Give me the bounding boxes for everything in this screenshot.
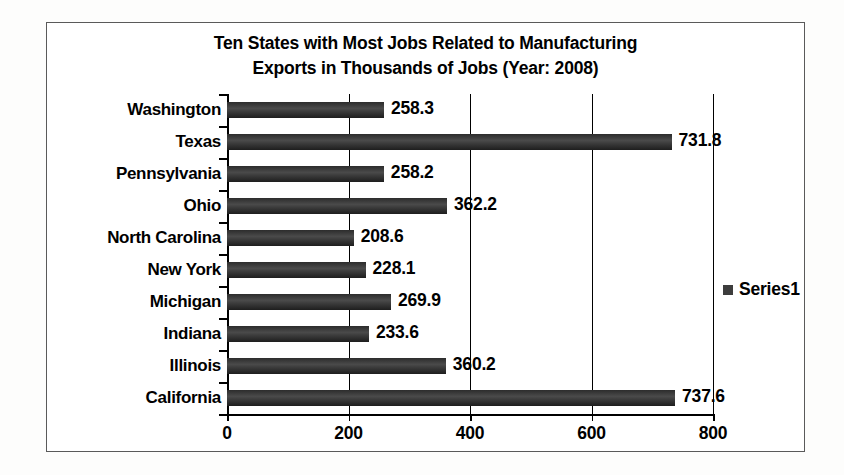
category-label-texas: Texas bbox=[43, 132, 221, 152]
y-axis-category-labels: WashingtonTexasPennsylvaniaOhioNorth Car… bbox=[47, 94, 221, 414]
value-label-washington: 258.3 bbox=[391, 98, 434, 119]
chart-title: Ten States with Most Jobs Related to Man… bbox=[47, 31, 804, 82]
bar-pennsylvania bbox=[227, 166, 384, 182]
y-tick-2 bbox=[219, 158, 227, 160]
x-tick-label-200: 200 bbox=[334, 423, 363, 444]
bar-north-carolina bbox=[227, 230, 354, 246]
legend: Series1 bbox=[723, 279, 800, 300]
category-label-new-york: New York bbox=[43, 260, 221, 280]
value-label-illinois: 360.2 bbox=[453, 354, 496, 375]
bar-california bbox=[227, 390, 675, 406]
value-label-ohio: 362.2 bbox=[454, 194, 497, 215]
y-tick-6 bbox=[219, 286, 227, 288]
value-label-pennsylvania: 258.2 bbox=[391, 162, 434, 183]
bar-illinois bbox=[227, 358, 446, 374]
bar-ohio bbox=[227, 198, 447, 214]
bar-texas bbox=[227, 134, 672, 150]
bar-indiana bbox=[227, 326, 369, 342]
x-axis-line bbox=[227, 414, 714, 416]
y-tick-8 bbox=[219, 350, 227, 352]
value-label-north-carolina: 208.6 bbox=[361, 226, 404, 247]
category-label-north-carolina: North Carolina bbox=[43, 228, 221, 248]
category-label-illinois: Illinois bbox=[43, 356, 221, 376]
value-label-california: 737.6 bbox=[682, 386, 725, 407]
y-tick-10 bbox=[219, 414, 227, 416]
chart-frame: Ten States with Most Jobs Related to Man… bbox=[46, 22, 805, 452]
bar-michigan bbox=[227, 294, 391, 310]
y-tick-1 bbox=[219, 126, 227, 128]
x-tick-label-800: 800 bbox=[699, 423, 728, 444]
bar-washington bbox=[227, 102, 384, 118]
category-label-michigan: Michigan bbox=[43, 292, 221, 312]
value-label-indiana: 233.6 bbox=[376, 322, 419, 343]
y-tick-7 bbox=[219, 318, 227, 320]
scanned-page-background: Ten States with Most Jobs Related to Man… bbox=[0, 0, 844, 475]
chart-title-line-1: Ten States with Most Jobs Related to Man… bbox=[47, 31, 804, 56]
value-label-michigan: 269.9 bbox=[398, 290, 441, 311]
x-axis-tick-labels: 0200400600800 bbox=[227, 423, 714, 451]
value-label-texas: 731.8 bbox=[679, 130, 722, 151]
y-tick-9 bbox=[219, 382, 227, 384]
category-label-california: California bbox=[43, 388, 221, 408]
category-label-indiana: Indiana bbox=[43, 324, 221, 344]
value-label-new-york: 228.1 bbox=[373, 258, 416, 279]
bar-new-york bbox=[227, 262, 366, 278]
legend-label-series1: Series1 bbox=[739, 279, 800, 300]
y-tick-0 bbox=[219, 94, 227, 96]
legend-swatch-series1 bbox=[723, 285, 733, 295]
y-tick-3 bbox=[219, 190, 227, 192]
x-tick-label-600: 600 bbox=[577, 423, 606, 444]
x-tick-label-0: 0 bbox=[222, 423, 232, 444]
chart-title-line-2: Exports in Thousands of Jobs (Year: 2008… bbox=[47, 56, 804, 81]
x-tick-label-400: 400 bbox=[456, 423, 485, 444]
y-tick-5 bbox=[219, 254, 227, 256]
y-tick-4 bbox=[219, 222, 227, 224]
category-label-pennsylvania: Pennsylvania bbox=[43, 164, 221, 184]
category-label-washington: Washington bbox=[43, 100, 221, 120]
category-label-ohio: Ohio bbox=[43, 196, 221, 216]
